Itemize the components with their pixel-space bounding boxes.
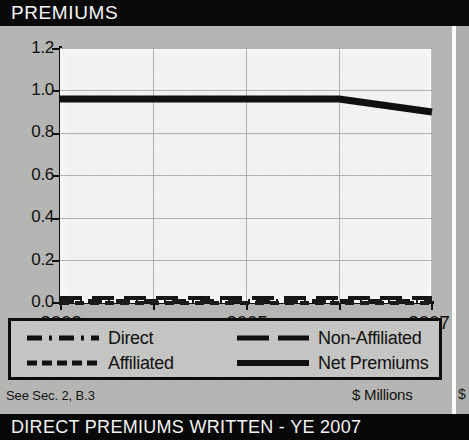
adjacent-column-sliver — [456, 26, 469, 414]
legend-label-direct: Direct — [108, 328, 153, 349]
y-tick-0_4 — [52, 218, 60, 220]
y-tick-0_6 — [52, 175, 60, 177]
y-tick-label-1_2: 1.2 — [10, 38, 54, 58]
legend-swatch-net-premiums-icon — [235, 356, 311, 370]
legend-label-non-affiliated: Non-Affiliated — [318, 328, 422, 349]
y-tick-label-0_8: 0.8 — [10, 122, 54, 142]
y-tick-0_0 — [52, 302, 60, 304]
y-tick-1_2 — [52, 48, 60, 50]
y-tick-0_2 — [52, 260, 60, 262]
legend-swatch-non-affiliated-icon — [235, 331, 311, 345]
chart-container: 1.2 1.0 0.8 0.6 0.4 0.2 0.0 — [8, 30, 444, 312]
x-tick-2006 — [339, 302, 341, 310]
legend-item-affiliated[interactable]: Affiliated — [25, 352, 174, 374]
y-tick-label-0_0: 0.0 — [10, 292, 54, 312]
legend-swatch-direct-icon — [25, 331, 101, 345]
adjacent-column-units-hint: $ — [458, 386, 466, 402]
section-footer-bar: DIRECT PREMIUMS WRITTEN - YE 2007 — [0, 414, 469, 440]
legend-label-net-premiums: Net Premiums — [318, 353, 428, 374]
y-tick-label-0_6: 0.6 — [10, 165, 54, 185]
legend-item-non-affiliated[interactable]: Non-Affiliated — [235, 327, 422, 349]
y-tick-label-0_2: 0.2 — [10, 250, 54, 270]
footer-title: DIRECT PREMIUMS WRITTEN - YE 2007 — [11, 417, 361, 438]
series-line-net-premiums — [60, 99, 432, 112]
legend-item-direct[interactable]: Direct — [25, 327, 153, 349]
section-header-bar: PREMIUMS — [0, 0, 469, 26]
source-reference-note: See Sec. 2, B.3 — [6, 388, 95, 403]
x-tick-2007 — [431, 302, 433, 310]
y-tick-label-1_0: 1.0 — [10, 80, 54, 100]
y-tick-label-0_4: 0.4 — [10, 207, 54, 227]
page-title: PREMIUMS — [11, 2, 118, 24]
legend-item-net-premiums[interactable]: Net Premiums — [235, 352, 428, 374]
y-tick-0_8 — [52, 133, 60, 135]
legend-swatch-affiliated-icon — [25, 356, 101, 370]
series-layer — [60, 48, 432, 303]
plot-area — [60, 48, 432, 303]
y-tick-1_0 — [52, 90, 60, 92]
y-axis-tick-labels: 1.2 1.0 0.8 0.6 0.4 0.2 0.0 — [8, 48, 54, 303]
chart-legend: Direct Affiliated Non-Affiliated Net Pre… — [8, 318, 442, 380]
legend-label-affiliated: Affiliated — [108, 353, 174, 374]
units-label: $ Millions — [352, 386, 413, 403]
